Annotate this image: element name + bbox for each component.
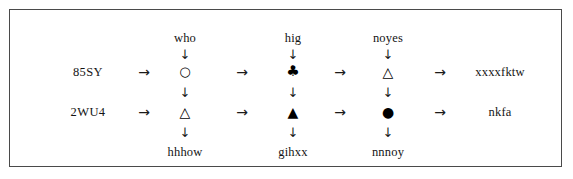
down-arrow-hig-to-club: ↓ xyxy=(258,48,328,61)
symbol-triangle-open-row2: △ xyxy=(150,105,220,119)
row-label-85sy: 85SY xyxy=(50,66,126,79)
symbol-triangle-open-row1: △ xyxy=(353,65,423,79)
symbol-circle-filled-row2: ● xyxy=(353,105,423,119)
down-arrow-circle-filled-to-nnnoy: ↓ xyxy=(353,126,423,139)
bottom-label-hhhow: hhhow xyxy=(150,146,220,159)
output-label-row2: nkfa xyxy=(460,106,540,119)
row-label-2wu4: 2WU4 xyxy=(50,106,126,119)
right-arrow-row2-4: → xyxy=(416,105,464,119)
down-arrow-noyes-to-triangle: ↓ xyxy=(353,48,423,61)
figure-border: who hig noyes ↓ ↓ ↓ 85SY → ○ → ♣ → △ → x… xyxy=(9,9,562,167)
down-arrow-triangle-filled-to-gihxx: ↓ xyxy=(258,126,328,139)
flow-diagram: who hig noyes ↓ ↓ ↓ 85SY → ○ → ♣ → △ → x… xyxy=(10,10,563,166)
down-arrow-triangle-to-circle-filled: ↓ xyxy=(353,86,423,99)
top-label-noyes: noyes xyxy=(353,32,423,45)
output-label-row1: xxxxfktw xyxy=(450,66,550,79)
down-arrow-triangle-to-hhhow: ↓ xyxy=(150,126,220,139)
down-arrow-club-to-triangle-filled: ↓ xyxy=(258,86,328,99)
down-arrow-who-to-circle: ↓ xyxy=(150,48,220,61)
down-arrow-circle-to-triangle: ↓ xyxy=(150,86,220,99)
bottom-label-gihxx: gihxx xyxy=(258,146,328,159)
symbol-circle-open-row1: ○ xyxy=(150,65,220,78)
top-label-hig: hig xyxy=(258,32,328,45)
top-label-who: who xyxy=(150,32,220,45)
bottom-label-nnnoy: nnnoy xyxy=(353,146,423,159)
